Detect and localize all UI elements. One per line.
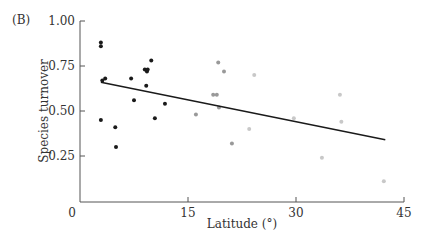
data-points bbox=[99, 41, 386, 184]
data-point bbox=[215, 93, 219, 97]
data-point bbox=[149, 59, 153, 63]
data-point bbox=[99, 41, 103, 45]
data-point bbox=[222, 69, 226, 73]
data-point bbox=[163, 102, 167, 106]
data-point bbox=[339, 120, 343, 124]
x-tick-label: 0 bbox=[68, 206, 76, 220]
data-point bbox=[99, 44, 103, 48]
x-tick-label: 45 bbox=[396, 206, 411, 220]
data-point bbox=[99, 118, 103, 122]
data-point bbox=[113, 125, 117, 129]
data-point bbox=[114, 145, 118, 149]
data-point bbox=[129, 77, 133, 81]
data-point bbox=[146, 68, 150, 72]
data-point bbox=[230, 141, 234, 145]
data-point bbox=[211, 93, 215, 97]
x-tick-label: 15 bbox=[180, 206, 195, 220]
data-point bbox=[338, 93, 342, 97]
panel-label: (B) bbox=[12, 13, 30, 27]
y-tick-label: 0.50 bbox=[48, 104, 75, 118]
data-point bbox=[103, 77, 107, 81]
data-point bbox=[153, 116, 157, 120]
scatter-chart: (B) 0.250.500.751.000153045 Latitude (°)… bbox=[0, 0, 426, 238]
data-point bbox=[252, 73, 256, 77]
trendline bbox=[101, 82, 385, 140]
axes: 0.250.500.751.000153045 bbox=[48, 14, 411, 220]
x-axis-label: Latitude (°) bbox=[207, 217, 277, 231]
y-tick-label: 0.25 bbox=[48, 149, 75, 163]
data-point bbox=[382, 179, 386, 183]
data-point bbox=[194, 113, 198, 117]
data-point bbox=[216, 60, 220, 64]
data-point bbox=[320, 156, 324, 160]
y-tick-label: 0.75 bbox=[48, 59, 75, 73]
data-point bbox=[144, 84, 148, 88]
data-point bbox=[132, 98, 136, 102]
y-axis-label: Species turnover bbox=[37, 59, 51, 163]
data-point bbox=[292, 116, 296, 120]
y-tick-label: 1.00 bbox=[48, 14, 75, 28]
x-tick-label: 30 bbox=[288, 206, 303, 220]
data-point bbox=[247, 127, 251, 131]
